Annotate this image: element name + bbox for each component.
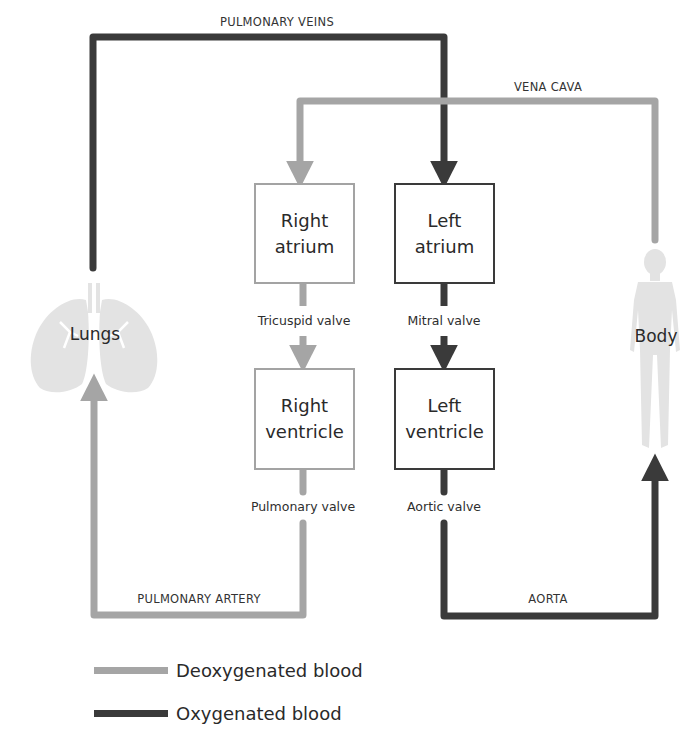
lungs-label: Lungs [70,324,120,344]
legend-label-deoxygenated: Deoxygenated blood [176,660,363,681]
body-label: Body [635,326,678,346]
left-atrium-box: Left atrium [394,183,495,284]
vena-cava-label: VENA CAVA [514,80,582,94]
pulmonary-artery-label: PULMONARY ARTERY [137,592,261,606]
right-atrium-box: Right atrium [254,183,355,284]
right-ventricle-box: Right ventricle [254,368,355,470]
pulmonary-veins-label: PULMONARY VEINS [220,15,334,29]
aortic-valve-label: Aortic valve [407,499,481,514]
aorta-label: AORTA [528,592,567,606]
body-icon [630,249,680,448]
legend-item-oxygenated: Oxygenated blood [94,703,342,724]
deoxygenated-swatch [94,667,168,674]
legend-item-deoxygenated: Deoxygenated blood [94,660,363,681]
pulmonary-valve-label: Pulmonary valve [251,499,355,514]
legend-label-oxygenated: Oxygenated blood [176,703,342,724]
mitral-valve-label: Mitral valve [407,313,480,328]
tricuspid-valve-label: Tricuspid valve [258,313,351,328]
oxygenated-swatch [94,710,168,717]
left-ventricle-box: Left ventricle [394,368,495,470]
